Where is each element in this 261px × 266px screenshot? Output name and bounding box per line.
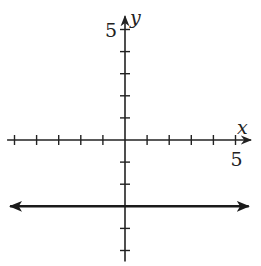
x-axis-label: x — [237, 116, 248, 138]
y-tick-label: 5 — [105, 19, 117, 41]
x-tick-label: 5 — [231, 148, 243, 170]
coordinate-plane: x y 55 — [0, 0, 261, 266]
y-axis-label: y — [129, 6, 141, 28]
